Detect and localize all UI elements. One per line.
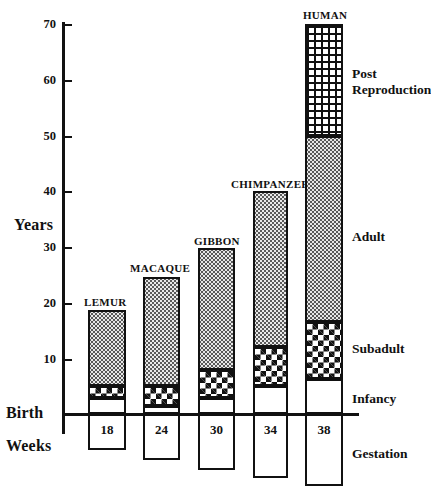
y-tick-70 [65,24,72,26]
segment-subadult-lemur [88,386,126,398]
y-tick-label-20: 20 [22,297,56,310]
y-tick-label-40: 40 [22,185,56,198]
y-tick-40 [65,191,72,193]
bar-gibbon[interactable] [198,248,235,414]
segment-post-reproduction-human [305,24,343,136]
gestation-weeks-macaque: 24 [155,422,168,438]
legend-subadult: Subadult [352,341,405,357]
y-axis-title: Years [14,216,53,234]
bar-label-macaque: MACAQUE [130,262,190,274]
legend-post-reproduction-line2: Reproduction [352,82,431,98]
segment-subadult-macaque [143,386,180,406]
y-tick-50 [65,136,72,138]
birth-baseline [62,413,359,416]
y-tick-20 [65,303,72,305]
gestation-weeks-lemur: 18 [101,422,114,438]
y-tick-label-30: 30 [22,241,56,254]
gestation-weeks-chimpanzee: 34 [264,422,277,438]
gestation-box-human[interactable]: 38 [305,414,343,486]
gestation-weeks-human: 38 [318,422,331,438]
legend-adult: Adult [352,229,385,245]
bar-label-human: HUMAN [303,9,347,21]
segment-infancy-gibbon [198,398,235,414]
gestation-box-gibbon[interactable]: 30 [198,414,235,470]
gestation-box-macaque[interactable]: 24 [143,414,180,460]
y-tick-label-50: 50 [22,130,56,143]
bar-macaque[interactable] [143,277,180,414]
gestation-weeks-gibbon: 30 [210,422,223,438]
legend-post-reproduction-line1: Post [352,66,431,82]
y-tick-10 [65,359,72,361]
legend-gestation: Gestation [352,446,408,462]
bar-chimpanzee[interactable] [253,191,288,414]
segment-adult-lemur [88,310,126,386]
gestation-box-chimpanzee[interactable]: 34 [253,414,288,478]
segment-subadult-chimpanzee [253,347,288,386]
bar-label-gibbon: GIBBON [194,235,240,247]
y-tick-label-60: 60 [22,74,56,87]
segment-infancy-lemur [88,398,126,414]
segment-adult-chimpanzee [253,191,288,347]
bar-human[interactable] [305,24,343,414]
bar-label-lemur: LEMUR [84,296,126,308]
segment-infancy-chimpanzee [253,386,288,414]
y-tick-label-10: 10 [22,353,56,366]
y-tick-60 [65,80,72,82]
birth-axis-label: Birth [6,404,43,422]
legend-infancy: Infancy [352,391,396,407]
weeks-axis-label: Weeks [6,437,51,455]
segment-adult-human [305,136,343,322]
segment-subadult-gibbon [198,370,235,398]
legend-post-reproduction: Post Reproduction [352,66,431,97]
segment-infancy-human [305,379,343,414]
y-tick-30 [65,247,72,249]
bar-label-chimpanzee: CHIMPANZEE [231,178,309,190]
segment-subadult-human [305,322,343,379]
y-tick-label-70: 70 [22,18,56,31]
bar-lemur[interactable] [88,310,126,414]
segment-adult-gibbon [198,248,235,370]
gestation-box-lemur[interactable]: 18 [88,414,126,450]
segment-adult-macaque [143,277,180,386]
y-axis-line [62,22,65,434]
